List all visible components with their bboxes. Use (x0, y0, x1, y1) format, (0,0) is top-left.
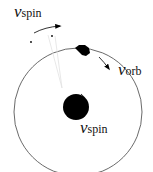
spin-arrow-top (34, 26, 60, 33)
label-vspin-top: vspin (14, 2, 42, 22)
label-vspin-center: vspin (80, 118, 108, 138)
orbit-diagram (0, 0, 153, 172)
dot-2 (51, 35, 53, 37)
orbital-arrow (99, 57, 109, 69)
guide-line-2 (55, 36, 62, 88)
label-vorb: vorb (118, 60, 142, 80)
asteroid-blob (75, 45, 90, 56)
guide-line-1 (48, 35, 62, 88)
central-body (63, 94, 89, 120)
dot-1 (30, 41, 32, 43)
